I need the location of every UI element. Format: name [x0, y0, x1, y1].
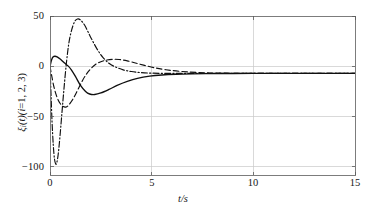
- x-tick-label: 0: [40, 177, 60, 188]
- x-tick-label: 5: [142, 177, 162, 188]
- y-axis-label-arg: (t)(: [16, 112, 27, 125]
- y-axis-label-index: i: [16, 109, 27, 112]
- plot-background: [50, 16, 355, 175]
- figure: 50 0 −50 −100 0 5 10 15 ξi(t)(i=1, 2, 3)…: [0, 0, 368, 211]
- y-tick-label: −100: [8, 161, 44, 172]
- x-tick-label: 10: [243, 177, 263, 188]
- y-tick-label: 50: [12, 10, 44, 21]
- y-axis-label: ξi(t)(i=1, 2, 3): [16, 47, 29, 157]
- y-axis-label-symbol: ξ: [16, 127, 27, 132]
- x-tick-label: 15: [345, 177, 365, 188]
- y-axis-label-rest: =1, 2, 3): [16, 73, 27, 109]
- y-axis-label-subscript: i: [19, 125, 28, 127]
- x-axis-label: t/s: [178, 193, 188, 204]
